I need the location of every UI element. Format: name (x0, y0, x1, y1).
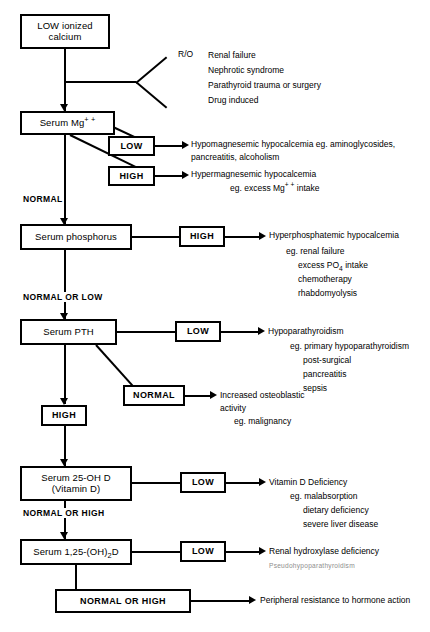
level-label: HIGH (119, 171, 143, 181)
node-serum-pth[interactable]: Serum PTH (20, 319, 117, 345)
outcome-vitd125-line1: Renal hydroxylase deficiency (269, 545, 379, 558)
outcome-final-line1: Peripheral resistance to hormone action (260, 594, 410, 607)
connector-vitd125-low-out (226, 551, 260, 553)
outcome-pth-low-line5: sepsis (303, 382, 327, 395)
node-label-line1: LOW ionized (37, 21, 92, 32)
level-label: LOW (120, 141, 142, 151)
arrow-final-out (249, 596, 256, 604)
node-serum-mg[interactable]: Serum Mg+ + (20, 111, 115, 135)
level-label: HIGH (52, 410, 76, 420)
outcome-pth-low-line3: post-surgical (303, 354, 351, 367)
arrow-high-to-vitd25 (60, 459, 68, 466)
connector-vitd125-to-low (132, 551, 180, 553)
node-label-final: NORMAL OR HIGH (80, 596, 166, 606)
outcome-vitd25-line1: Vitamin D Deficiency (269, 476, 347, 489)
outcome-mg-low-line1: Hypomagnesemic hypocalcemia eg. aminogly… (191, 138, 395, 151)
level-label: NORMAL (133, 390, 175, 400)
arrow-pth-to-high (60, 398, 68, 405)
node-normal-or-high-final[interactable]: NORMAL OR HIGH (55, 589, 191, 613)
arrow-start-to-mg (60, 104, 68, 111)
connector-mg-high-out (155, 175, 183, 177)
outcome-phos-line2: eg. renal failure (286, 245, 345, 258)
outcome-pth-low-line4: pancreatitis (303, 368, 346, 381)
node-label-line1: Serum 25-OH D (41, 473, 110, 484)
node-serum-phosphorus[interactable]: Serum phosphorus (20, 224, 132, 250)
arrow-mg-high-out (182, 171, 189, 179)
arrow-vitd125-low-out (259, 547, 266, 555)
node-label-serum-mg: Serum Mg+ + (40, 118, 96, 129)
arrow-vitd25-to-vitd125 (60, 532, 68, 539)
spine-label-normal-or-high: NORMAL OR HIGH (22, 508, 105, 518)
connector-ro-stem (66, 81, 136, 83)
flowchart-canvas: LOW ionized calcium R/O Renal failure Ne… (0, 0, 430, 632)
connector-pth-to-low (117, 331, 175, 333)
level-box-phos-high[interactable]: HIGH (179, 226, 225, 247)
connector-phos-to-high (132, 236, 179, 238)
outcome-phos-line4: chemotherapy (298, 273, 352, 286)
node-label-serum-pth: Serum PTH (43, 327, 94, 338)
arrow-vitd25-low-out (259, 478, 266, 486)
node-label-serum-phosphorus: Serum phosphorus (35, 232, 117, 243)
ro-item-3: Parathyroid trauma or surgery (208, 79, 321, 92)
outcome-vitd25-line3: dietary deficiency (303, 504, 369, 517)
connector-ro-upper (135, 57, 167, 84)
level-box-vitd25-low[interactable]: LOW (180, 472, 226, 493)
connector-start-to-mg (64, 49, 66, 111)
outcome-pth-normal-line3: eg. malignancy (234, 415, 291, 428)
outcome-mg-high-line1: Hypermagnesemic hypocalcemia (191, 168, 316, 181)
connector-mg-low-out (155, 145, 183, 147)
connector-pth-low-out (221, 331, 259, 333)
outcome-phos-line5: rhabdomyolysis (298, 287, 357, 300)
node-label-line2: calcium (49, 32, 82, 43)
arrow-phos-high-out (259, 232, 266, 240)
ro-item-1: Renal failure (208, 49, 256, 62)
ro-item-2: Nephrotic syndrome (208, 64, 284, 77)
connector-vitd125-to-final (75, 565, 77, 590)
spine-label-normal: NORMAL (22, 194, 64, 204)
connector-vitd25-to-low (132, 482, 180, 484)
outcome-pth-low-line2: eg. primary hypoparathyroidism (290, 340, 409, 353)
connector-pth-normal-out (185, 395, 211, 397)
connector-pth-to-high (64, 345, 66, 404)
connector-phos-to-pth (64, 250, 66, 319)
level-label: LOW (192, 546, 214, 556)
connector-vitd25-low-out (226, 482, 260, 484)
ro-label: R/O (178, 49, 193, 59)
level-label: LOW (192, 477, 214, 487)
level-box-vitd125-low[interactable]: LOW (180, 541, 226, 562)
ro-item-4: Drug induced (208, 94, 259, 107)
connector-phos-high-out (225, 236, 260, 238)
outcome-phos-line1: Hyperphosphatemic hypocalcemia (269, 229, 399, 242)
node-low-ionized-calcium[interactable]: LOW ionized calcium (20, 14, 110, 49)
outcome-vitd25-line2: eg. malabsorption (290, 490, 358, 503)
level-box-pth-low[interactable]: LOW (175, 321, 221, 342)
connector-final-out (191, 600, 250, 602)
connector-mg-to-phos (64, 135, 66, 224)
arrow-mg-low-out (182, 141, 189, 149)
node-label-line2: (Vitamin D) (52, 484, 100, 495)
outcome-mg-low-line2: pancreatitis, alcoholism (191, 151, 279, 164)
arrow-pth-normal-out (210, 391, 217, 399)
level-box-spine-high[interactable]: HIGH (41, 405, 87, 426)
outcome-pth-normal-line1: Increased osteoblastic (220, 389, 305, 402)
outcome-mg-high-line2: eg. excess Mg+ + intake (230, 182, 319, 195)
connector-ro-lower (135, 81, 167, 108)
level-label: HIGH (190, 231, 214, 241)
outcome-vitd25-line4: severe liver disease (303, 518, 378, 531)
level-box-mg-high[interactable]: HIGH (108, 166, 155, 186)
level-label: LOW (187, 326, 209, 336)
outcome-phos-line3: excess PO4 intake (298, 259, 368, 272)
node-label-serum-125-ohd: Serum 1,25-(OH)2D (33, 547, 119, 558)
level-box-pth-normal[interactable]: NORMAL (123, 385, 185, 406)
outcome-vitd125-pseudohypoparathyroidism: Pseudohypoparathyroidism (269, 562, 355, 569)
spine-label-normal-or-low: NORMAL OR LOW (22, 292, 104, 302)
arrow-pth-low-out (258, 327, 265, 335)
outcome-pth-low-line1: Hypoparathyroidism (268, 325, 344, 338)
node-serum-25ohd[interactable]: Serum 25-OH D (Vitamin D) (20, 466, 132, 501)
outcome-pth-normal-line2: activity (220, 402, 246, 415)
node-serum-125-ohd[interactable]: Serum 1,25-(OH)2D (20, 539, 132, 565)
level-box-mg-low[interactable]: LOW (108, 136, 155, 156)
